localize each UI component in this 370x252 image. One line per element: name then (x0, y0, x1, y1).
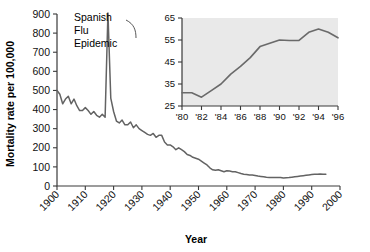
y-axis-title: Mortality rate per 100,000 (4, 41, 16, 167)
annotation-line-3: Epidemic (74, 37, 117, 49)
inset-x-axis-ticks: '80'82'84'86'88'90'92'94'96 (176, 106, 344, 122)
inset-x-tick-label: '86 (234, 111, 246, 122)
mortality-rate-chart: 0100200300400500600700800900 19001910192… (0, 0, 370, 252)
x-tick-label: 1940 (150, 188, 175, 213)
y-tick-label: 200 (32, 141, 50, 153)
inset-y-tick-label: 25 (164, 100, 175, 111)
inset-x-tick-label: '84 (215, 111, 227, 122)
x-tick-label: 1970 (235, 188, 260, 213)
inset-plot: 2535455565 '80'82'84'86'88'90'92'94'96 (164, 12, 344, 122)
x-axis-title: Year (185, 233, 207, 245)
inset-y-tick-label: 65 (164, 12, 175, 23)
y-tick-label: 900 (32, 8, 50, 20)
spanish-flu-annotation: Spanish Flu Epidemic (74, 11, 136, 49)
annotation-line-2: Flu (74, 24, 89, 36)
inset-x-tick-label: '82 (195, 111, 207, 122)
x-tick-label: 2000 (319, 188, 344, 213)
y-tick-label: 700 (32, 46, 50, 58)
y-tick-label: 400 (32, 103, 50, 115)
x-tick-label: 1900 (36, 188, 61, 213)
y-tick-label: 800 (32, 27, 50, 39)
x-tick-label: 1910 (65, 188, 90, 213)
inset-y-tick-label: 35 (164, 78, 175, 89)
x-tick-label: 1950 (178, 188, 203, 213)
y-tick-label: 100 (32, 161, 50, 173)
annotation-leader-line (126, 20, 136, 38)
inset-y-tick-label: 55 (164, 34, 175, 45)
x-tick-label: 1920 (93, 188, 118, 213)
inset-x-tick-label: '80 (176, 111, 188, 122)
inset-y-axis-ticks: 2535455565 (164, 12, 182, 111)
y-tick-label: 0 (44, 180, 50, 192)
inset-x-tick-label: '94 (312, 111, 324, 122)
inset-x-tick-label: '96 (332, 111, 344, 122)
main-y-axis-ticks: 0100200300400500600700800900 (32, 8, 57, 192)
inset-y-tick-label: 45 (164, 56, 175, 67)
inset-x-tick-label: '88 (254, 111, 266, 122)
inset-x-tick-label: '92 (293, 111, 305, 122)
inset-panel-background (182, 18, 338, 106)
main-x-axis-ticks: 1900191019201930194019501960197019801990… (36, 186, 344, 213)
figure-container: 0100200300400500600700800900 19001910192… (0, 0, 370, 252)
x-tick-label: 1930 (121, 188, 146, 213)
y-tick-label: 500 (32, 84, 50, 96)
x-tick-label: 1980 (263, 188, 288, 213)
y-tick-label: 600 (32, 65, 50, 77)
inset-x-tick-label: '90 (273, 111, 285, 122)
annotation-line-1: Spanish (74, 11, 112, 23)
x-tick-label: 1960 (206, 188, 231, 213)
x-tick-label: 1990 (291, 188, 316, 213)
y-tick-label: 300 (32, 122, 50, 134)
